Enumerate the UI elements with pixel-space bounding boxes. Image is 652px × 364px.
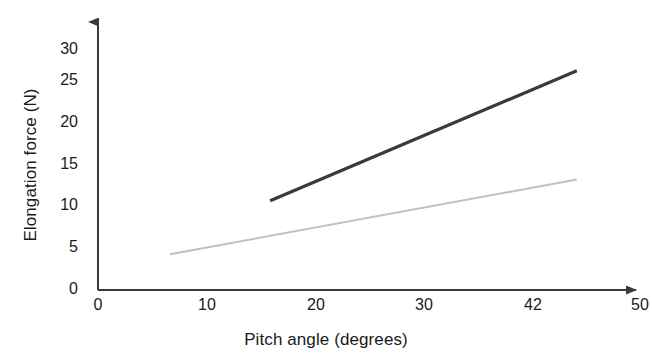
y-tick-label-30: 30: [38, 40, 78, 58]
y-axis-title: Elongation force (N): [21, 50, 41, 280]
x-tick-label-0: 0: [78, 296, 118, 314]
y-tick-label-15: 15: [38, 155, 78, 173]
y-tick-label-0: 0: [38, 280, 78, 298]
x-axis-title: Pitch angle (degrees): [0, 330, 652, 350]
y-tick-label-10: 10: [38, 196, 78, 214]
y-tick-label-25: 25: [38, 71, 78, 89]
x-tick-label-10: 10: [187, 296, 227, 314]
axes-group: [98, 22, 636, 290]
x-tick-label-42: 42: [513, 296, 553, 314]
x-tick-label-20: 20: [296, 296, 336, 314]
data-line-lower-line: [170, 180, 577, 255]
chart-figure: 30 25 20 15 10 5 0 0 10 20 30 42 50 Elon…: [0, 0, 652, 364]
x-tick-label-30: 30: [404, 296, 444, 314]
y-tick-label-20: 20: [38, 113, 78, 131]
y-tick-label-5: 5: [38, 238, 78, 256]
x-tick-label-50: 50: [620, 296, 652, 314]
data-series-group: [170, 71, 577, 255]
data-line-upper-line: [270, 71, 577, 201]
